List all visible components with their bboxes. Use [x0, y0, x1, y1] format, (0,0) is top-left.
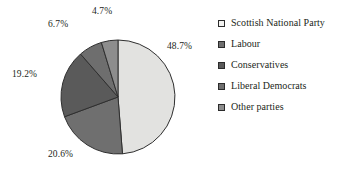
pie-slice-scottish-national-party[interactable]: [118, 40, 175, 154]
legend-item-other-parties[interactable]: Other parties: [218, 97, 351, 117]
legend-swatch-icon: [218, 41, 225, 48]
pie-chart-svg: [0, 0, 215, 183]
legend-item-label: Conservatives: [231, 60, 288, 70]
legend-swatch-icon: [218, 62, 225, 69]
slice-value-label-other-parties: 4.7%: [92, 6, 112, 16]
legend-item-labour[interactable]: Labour: [218, 34, 351, 54]
chart-legend: Scottish National PartyLabourConservativ…: [218, 13, 351, 118]
pie-chart-plot-area: 48.7% 20.6% 19.2% 6.7% 4.7%: [0, 0, 215, 183]
legend-item-scottish-national-party[interactable]: Scottish National Party: [218, 13, 351, 33]
slice-value-label-conservatives: 19.2%: [12, 69, 37, 79]
slice-value-label-snp: 48.7%: [167, 41, 192, 51]
legend-swatch-icon: [218, 104, 225, 111]
legend-swatch-icon: [218, 20, 225, 27]
pie-chart-figure: 48.7% 20.6% 19.2% 6.7% 4.7% Scottish Nat…: [0, 0, 351, 183]
legend-item-label: Other parties: [231, 102, 284, 112]
pie-slice-group: [61, 40, 175, 154]
legend-item-label: Labour: [231, 39, 260, 49]
slice-value-label-labour: 20.6%: [48, 149, 73, 159]
legend-item-label: Scottish National Party: [231, 18, 325, 28]
slice-value-label-liberal-democrats: 6.7%: [48, 19, 68, 29]
legend-item-liberal-democrats[interactable]: Liberal Democrats: [218, 76, 351, 96]
legend-item-conservatives[interactable]: Conservatives: [218, 55, 351, 75]
legend-item-label: Liberal Democrats: [231, 81, 307, 91]
legend-swatch-icon: [218, 83, 225, 90]
